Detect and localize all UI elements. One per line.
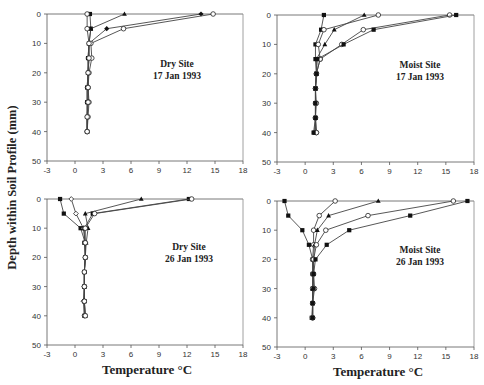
y-tick-label: 40 bbox=[262, 314, 271, 323]
x-tick-label: 9 bbox=[157, 166, 162, 175]
y-tick-label: 40 bbox=[262, 129, 271, 138]
y-tick-label: 10 bbox=[32, 224, 41, 233]
x-tick-label: 9 bbox=[387, 352, 392, 361]
panel-top-left: 01020304050-30369121518Dry Site17 Jan 19… bbox=[32, 10, 248, 175]
x-tick-label: 3 bbox=[101, 166, 106, 175]
x-tick-label: -3 bbox=[273, 167, 281, 176]
x-tick-label: 12 bbox=[413, 167, 422, 176]
x-tick-label: 12 bbox=[183, 166, 192, 175]
x-tick-label: 15 bbox=[441, 167, 450, 176]
x-tick-label: 12 bbox=[413, 352, 422, 361]
y-tick-label: 30 bbox=[32, 98, 41, 107]
panel-bottom-right: 01020304050-30369121518Moist Site26 Jan … bbox=[262, 197, 479, 361]
panel-annotation: Moist Site bbox=[400, 245, 441, 255]
x-tick-label: -3 bbox=[273, 352, 281, 361]
x-tick-label: 6 bbox=[129, 350, 134, 359]
x-tick-label: 3 bbox=[331, 167, 336, 176]
x-tick-label: 9 bbox=[387, 167, 392, 176]
y-tick-label: 50 bbox=[262, 158, 271, 167]
series-line bbox=[315, 15, 378, 133]
y-tick-label: 20 bbox=[262, 70, 271, 79]
x-axis-label-right: Temperature °C bbox=[333, 364, 423, 380]
y-tick-label: 30 bbox=[262, 285, 271, 294]
x-tick-label: 18 bbox=[239, 166, 248, 175]
y-tick-label: 10 bbox=[32, 39, 41, 48]
panel-top-right: 01020304050-30369121518Moist Site17 Jan … bbox=[262, 11, 479, 176]
series-line bbox=[313, 201, 379, 318]
x-tick-label: 6 bbox=[359, 352, 364, 361]
x-tick-label: 18 bbox=[239, 350, 248, 359]
panel-annotation: 26 Jan 1993 bbox=[165, 254, 213, 264]
series-line bbox=[313, 201, 468, 318]
y-axis-label: Depth within Soil Profile (mm) bbox=[5, 98, 20, 278]
x-tick-label: 6 bbox=[129, 166, 134, 175]
x-tick-label: 0 bbox=[73, 166, 78, 175]
x-axis-label-left: Temperature °C bbox=[102, 362, 192, 378]
series-line bbox=[285, 201, 313, 318]
panel-annotation: 17 Jan 1993 bbox=[153, 71, 201, 81]
series-line bbox=[60, 199, 85, 316]
y-tick-label: 40 bbox=[32, 128, 41, 137]
y-tick-label: 20 bbox=[262, 255, 271, 264]
y-tick-label: 50 bbox=[32, 157, 41, 166]
x-tick-label: -3 bbox=[43, 350, 51, 359]
series-line bbox=[87, 14, 124, 132]
y-tick-label: 10 bbox=[262, 40, 271, 49]
y-tick-label: 20 bbox=[32, 253, 41, 262]
y-tick-label: 20 bbox=[32, 69, 41, 78]
x-tick-label: 18 bbox=[470, 167, 479, 176]
y-tick-label: 50 bbox=[262, 343, 271, 352]
plot-area: 01020304050-30369121518Dry Site17 Jan 19… bbox=[0, 0, 484, 385]
y-tick-label: 30 bbox=[32, 283, 41, 292]
y-tick-label: 0 bbox=[37, 10, 42, 19]
y-tick-label: 40 bbox=[32, 312, 41, 321]
x-tick-label: 15 bbox=[441, 352, 450, 361]
panel-annotation: Dry Site bbox=[160, 59, 194, 69]
figure: 01020304050-30369121518Dry Site17 Jan 19… bbox=[0, 0, 484, 385]
x-tick-label: 0 bbox=[303, 352, 308, 361]
y-tick-label: 0 bbox=[267, 197, 272, 206]
x-tick-label: 9 bbox=[157, 350, 162, 359]
y-tick-label: 10 bbox=[262, 226, 271, 235]
x-tick-label: 15 bbox=[211, 166, 220, 175]
y-tick-label: 0 bbox=[37, 195, 42, 204]
panel-bottom-left: 01020304050-30369121518Dry Site26 Jan 19… bbox=[32, 195, 248, 359]
x-tick-label: 6 bbox=[359, 167, 364, 176]
x-tick-label: 0 bbox=[303, 167, 308, 176]
x-tick-label: -3 bbox=[43, 166, 51, 175]
panel-annotation: Moist Site bbox=[400, 60, 441, 70]
y-tick-label: 0 bbox=[267, 11, 272, 20]
panel-annotation: Dry Site bbox=[172, 242, 206, 252]
x-tick-label: 12 bbox=[183, 350, 192, 359]
y-tick-label: 50 bbox=[32, 341, 41, 350]
x-tick-label: 18 bbox=[470, 352, 479, 361]
x-tick-label: 3 bbox=[331, 352, 336, 361]
x-tick-label: 3 bbox=[101, 350, 106, 359]
x-tick-label: 15 bbox=[211, 350, 220, 359]
panel-annotation: 26 Jan 1993 bbox=[396, 257, 444, 267]
panel-annotation: 17 Jan 1993 bbox=[396, 72, 444, 82]
y-tick-label: 30 bbox=[262, 99, 271, 108]
x-tick-label: 0 bbox=[73, 350, 78, 359]
